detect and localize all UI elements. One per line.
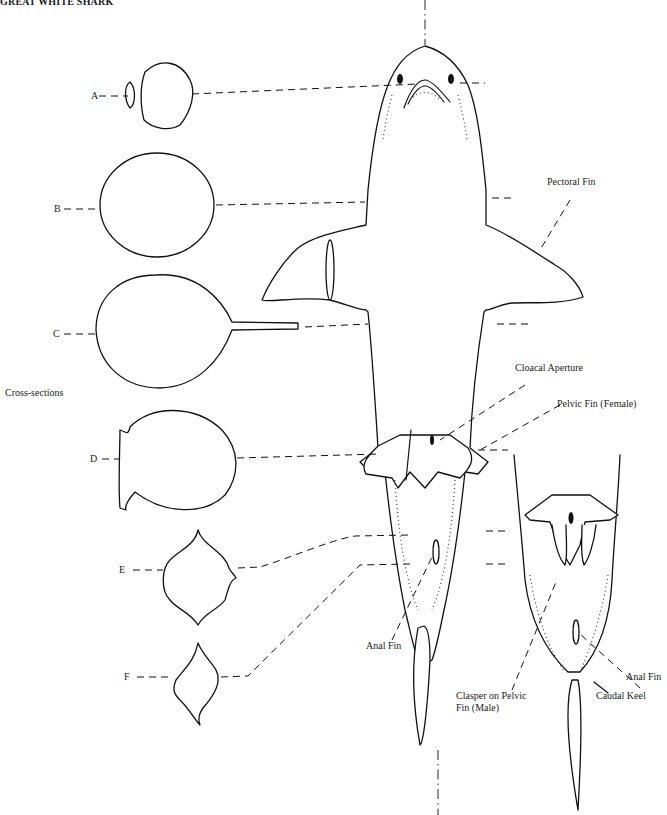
label-pelvic-fin-female: Pelvic Fin (Female) xyxy=(557,398,636,410)
label-caudal-keel: Caudal Keel xyxy=(596,690,646,702)
cross-section-D xyxy=(102,410,380,510)
leader-pelvic-female xyxy=(480,405,560,450)
pectoral-fin-slit xyxy=(326,240,334,300)
cross-sections-label: Cross-sections xyxy=(5,387,63,399)
anal-fin-main xyxy=(433,540,439,564)
label-cloacal-aperture: Cloacal Aperture xyxy=(515,362,583,374)
shark-main-body xyxy=(262,46,583,745)
label-anal-fin-main: Anal Fin xyxy=(366,640,401,652)
label-clasper-line1: Clasper on Pelvic xyxy=(456,690,527,702)
leader-pectoral xyxy=(540,200,570,250)
cloacal-aperture xyxy=(430,435,434,445)
cross-section-E xyxy=(133,530,410,625)
cross-section-label-A: A xyxy=(91,90,98,102)
cross-section-label-E: E xyxy=(119,564,125,576)
cross-section-label-C: C xyxy=(53,328,60,340)
diagram-title: GREAT WHITE SHARK xyxy=(0,0,113,7)
cross-section-label-B: B xyxy=(54,203,61,215)
cross-section-label-D: D xyxy=(90,453,97,465)
cross-section-label-F: F xyxy=(124,671,130,683)
label-anal-fin-male: Anal Fin xyxy=(626,671,661,683)
shark-inset-male xyxy=(514,455,620,810)
cross-section-A xyxy=(99,63,418,129)
label-clasper-line2: Fin (Male) xyxy=(456,702,499,714)
label-pectoral-fin: Pectoral Fin xyxy=(547,176,596,188)
